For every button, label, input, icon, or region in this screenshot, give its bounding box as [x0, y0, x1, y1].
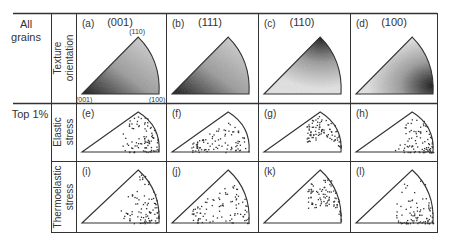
data-point: [308, 208, 309, 209]
data-point: [329, 184, 330, 185]
data-point: [329, 138, 330, 139]
data-point: [420, 137, 421, 138]
data-point: [197, 206, 198, 207]
data-point: [196, 212, 197, 213]
data-point: [430, 150, 431, 151]
data-point: [310, 197, 311, 198]
data-point: [135, 204, 136, 205]
data-point: [242, 202, 243, 203]
ipf-panel-f: (f): [172, 108, 250, 153]
data-point: [235, 196, 236, 197]
data-point: [335, 193, 336, 194]
data-point: [406, 222, 407, 223]
data-point: [427, 221, 428, 222]
data-point: [430, 215, 431, 216]
data-point: [145, 219, 146, 220]
data-point: [225, 142, 226, 143]
data-point: [210, 146, 211, 147]
data-point: [315, 119, 316, 120]
data-point: [239, 141, 240, 142]
data-point: [138, 143, 139, 144]
data-point: [327, 205, 328, 206]
data-point: [200, 213, 201, 214]
data-point: [407, 220, 408, 221]
data-point: [230, 215, 231, 216]
data-point: [429, 134, 430, 135]
data-point: [128, 196, 129, 197]
data-point: [197, 148, 198, 149]
data-point: [244, 137, 245, 138]
data-point: [231, 147, 232, 148]
data-point: [137, 216, 138, 217]
data-point: [417, 211, 418, 212]
column-header-111: (111): [198, 16, 222, 28]
data-point: [307, 138, 308, 139]
data-point: [149, 222, 150, 223]
data-point: [126, 213, 127, 214]
data-point: [198, 219, 199, 220]
data-point: [321, 119, 322, 120]
data-point: [127, 143, 128, 144]
data-point: [129, 218, 130, 219]
data-point: [213, 216, 214, 217]
data-point: [205, 202, 206, 203]
data-point: [136, 124, 137, 125]
data-point: [244, 220, 245, 221]
column-header-001: (001): [107, 16, 133, 28]
data-point: [398, 148, 399, 149]
data-point: [218, 139, 219, 140]
data-point: [218, 197, 219, 198]
data-point: [341, 147, 342, 148]
data-point: [192, 152, 193, 153]
data-point: [405, 187, 406, 188]
data-point: [207, 198, 208, 199]
data-point: [230, 124, 231, 125]
data-point: [323, 194, 324, 195]
data-point: [420, 221, 421, 222]
data-point: [141, 208, 142, 209]
data-point: [212, 221, 213, 222]
data-point: [212, 143, 213, 144]
data-point: [309, 126, 310, 127]
data-point: [148, 218, 149, 219]
data-point: [236, 194, 237, 195]
data-point: [313, 137, 314, 138]
data-point: [408, 201, 409, 202]
data-point: [132, 211, 133, 212]
data-point: [311, 191, 312, 192]
data-point: [427, 149, 428, 150]
data-point: [412, 119, 413, 120]
data-point: [154, 214, 155, 215]
data-point: [307, 191, 308, 192]
data-point: [155, 194, 156, 195]
data-point: [231, 134, 232, 135]
data-point: [428, 143, 429, 144]
data-point: [415, 217, 416, 218]
data-point: [147, 222, 148, 223]
data-point: [424, 148, 425, 149]
data-point: [420, 133, 421, 134]
data-point: [310, 131, 311, 132]
corner-label-100: (100): [149, 96, 165, 104]
data-point: [337, 207, 338, 208]
data-point: [197, 222, 198, 223]
data-point: [315, 134, 316, 135]
data-point: [201, 149, 202, 150]
data-point: [206, 219, 207, 220]
data-point: [150, 128, 151, 129]
data-point: [427, 223, 428, 224]
svg-text:stress: stress: [64, 184, 75, 211]
data-point: [151, 199, 152, 200]
data-point: [212, 136, 213, 137]
data-point: [156, 207, 157, 208]
data-point: [422, 198, 423, 199]
data-point: [430, 137, 431, 138]
data-point: [145, 122, 146, 123]
data-point: [337, 137, 338, 138]
data-point: [148, 152, 149, 153]
data-point: [341, 219, 342, 220]
data-point: [219, 193, 220, 194]
data-point: [417, 217, 418, 218]
data-point: [121, 210, 122, 211]
data-point: [309, 140, 310, 141]
